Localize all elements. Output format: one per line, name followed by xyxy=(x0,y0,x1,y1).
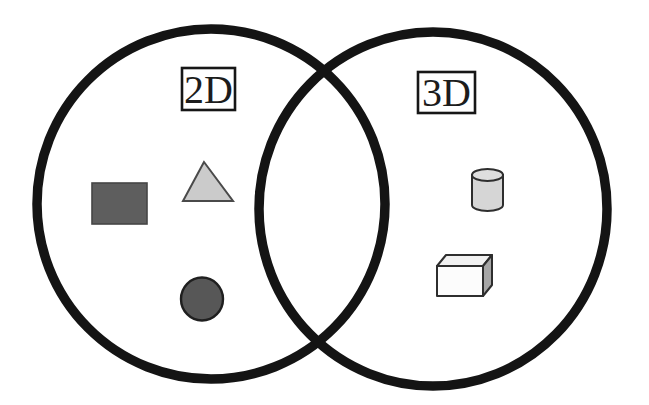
venn-diagram-page: 2D 3D xyxy=(0,0,649,405)
left-set-label: 2D xyxy=(182,67,235,112)
circle-icon xyxy=(181,278,223,321)
right-set-label: 3D xyxy=(418,70,475,115)
venn-diagram: 2D 3D xyxy=(0,0,649,405)
rectangle-icon xyxy=(92,183,147,224)
right-label-text: 3D xyxy=(422,70,471,115)
cube-front-face xyxy=(437,266,483,296)
cylinder-icon xyxy=(472,169,503,211)
cube-icon xyxy=(437,255,492,296)
left-label-text: 2D xyxy=(184,67,233,112)
cylinder-top xyxy=(472,169,503,181)
triangle-icon xyxy=(183,162,233,201)
